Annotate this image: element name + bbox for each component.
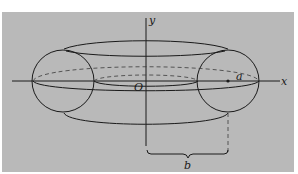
- y-axis-label: y: [148, 14, 156, 27]
- radius-label: a: [236, 70, 243, 83]
- circle-center-point: [226, 79, 229, 82]
- torus-diagram: y x O a b: [0, 0, 298, 174]
- origin-label: O: [134, 81, 143, 94]
- distance-label: b: [184, 159, 191, 172]
- distance-brace: [147, 150, 228, 158]
- x-axis-label: x: [281, 75, 288, 88]
